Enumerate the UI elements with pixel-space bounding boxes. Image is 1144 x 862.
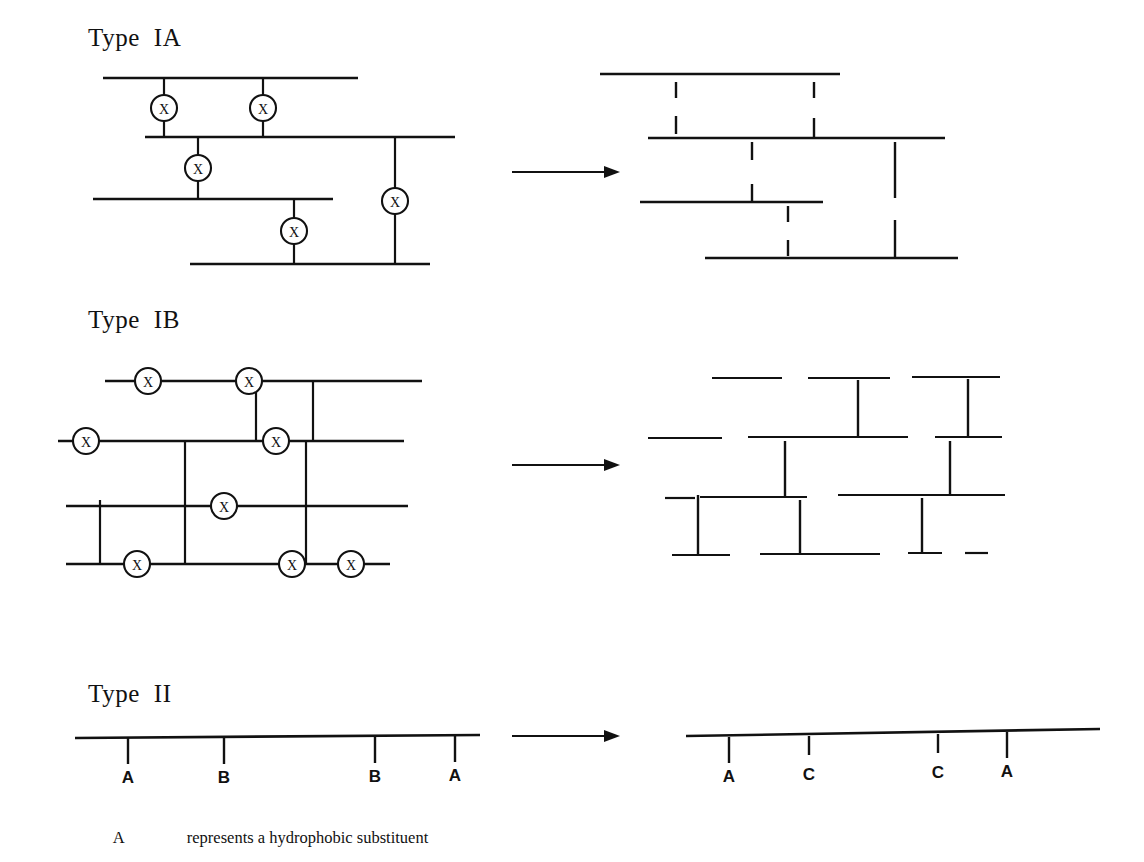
crosslink-node-label: X [81, 435, 91, 450]
crosslink-node: X [151, 95, 177, 121]
crosslink-node: X [73, 428, 99, 454]
crosslink-node-label: X [244, 375, 254, 390]
crosslink-node: X [382, 188, 408, 214]
substituent-label-a: A [723, 767, 735, 786]
crosslink-node: X [124, 551, 150, 577]
crosslink-node: X [279, 551, 305, 577]
reaction-arrow-type-ib [512, 459, 620, 471]
substituent-label-b: B [218, 768, 230, 787]
crosslink-node-label: X [193, 162, 203, 177]
crosslink-node: X [185, 155, 211, 181]
crosslink-node-label: X [346, 558, 356, 573]
arrow-head [604, 730, 620, 742]
legend-line: Arepresents a hydrophobic substituent [88, 800, 499, 862]
substituent-label-c: C [803, 765, 815, 784]
substituent-label-a: A [1001, 762, 1013, 781]
type-ib-before-group: X X X X X X X [58, 368, 422, 577]
crosslink-node-label: X [143, 375, 153, 390]
reaction-arrow-type-ii [512, 730, 620, 742]
crosslink-node: X [135, 368, 161, 394]
type-ii-after-group: A C C A [686, 729, 1100, 786]
crosslink-node-label: X [390, 195, 400, 210]
type-ii-before-group: A B B A [75, 735, 480, 787]
crosslink-node: X [263, 428, 289, 454]
type-ib-after-group [648, 377, 1005, 555]
crosslink-node-label: X [289, 225, 299, 240]
crosslink-node-label: X [258, 102, 268, 117]
type-ia-before-group: X X X X X [93, 78, 455, 264]
crosslink-node: X [338, 551, 364, 577]
type-ia-after-group [600, 74, 958, 258]
crosslink-node-label: X [219, 500, 229, 515]
substituent-label-c: C [932, 763, 944, 782]
legend-text: represents a hydrophobic substituent [187, 828, 429, 847]
figure-root: Type IA Type IB Type II X X [0, 0, 1144, 862]
crosslink-node-label: X [132, 558, 142, 573]
reaction-arrow-type-ia [512, 166, 620, 178]
crosslink-node: X [281, 218, 307, 244]
crosslink-node: X [236, 368, 262, 394]
arrow-head [604, 166, 620, 178]
crosslink-node-label: X [159, 102, 169, 117]
legend-key: A [113, 825, 187, 850]
substituent-label-b: B [369, 767, 381, 786]
diagram-canvas: X X X X X [0, 0, 1144, 862]
crosslink-node: X [250, 95, 276, 121]
legend-block: Arepresents a hydrophobic substituent B … [88, 800, 499, 862]
polymer-chain [686, 729, 1100, 736]
crosslink-node-label: X [287, 558, 297, 573]
polymer-chain [75, 735, 480, 738]
arrow-head [604, 459, 620, 471]
substituent-label-a: A [122, 768, 134, 787]
substituent-label-a: A [449, 766, 461, 785]
crosslink-node-label: X [271, 435, 281, 450]
crosslink-node: X [211, 493, 237, 519]
